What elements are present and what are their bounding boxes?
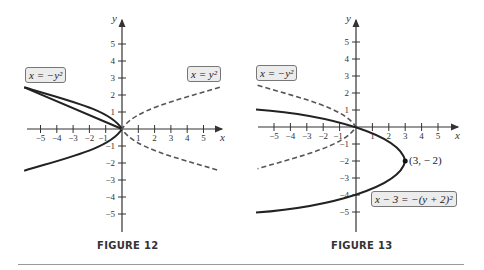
label-fig13-shifted-parabola: x − 3 = −(y + 2)² <box>371 191 457 207</box>
svg-text:−2: −2 <box>105 158 115 168</box>
svg-text:5: 5 <box>345 37 350 47</box>
svg-text:4: 4 <box>185 133 190 143</box>
svg-text:2: 2 <box>387 131 392 141</box>
label-fig12-x-eq-neg-y-squared: x = −y² <box>25 67 66 83</box>
svg-text:1: 1 <box>111 107 116 117</box>
svg-text:3: 3 <box>111 73 116 83</box>
svg-text:2: 2 <box>345 88 350 98</box>
svg-text:−4: −4 <box>105 192 115 202</box>
svg-text:5: 5 <box>201 133 206 143</box>
svg-text:4: 4 <box>111 56 116 66</box>
svg-text:−3: −3 <box>105 175 115 185</box>
svg-text:−3: −3 <box>302 131 312 141</box>
figure-12-graph: −5 −4 −3 −2 −1 1 2 3 4 5 5 4 3 2 1 −1 −2… <box>24 12 225 232</box>
svg-text:−3: −3 <box>68 133 78 143</box>
svg-text:−2: −2 <box>318 131 328 141</box>
svg-text:4: 4 <box>419 131 424 141</box>
svg-text:4: 4 <box>345 54 350 64</box>
figure-13-caption: FIGURE 13 <box>331 240 393 251</box>
svg-text:3: 3 <box>403 131 408 141</box>
svg-text:−5: −5 <box>36 133 46 143</box>
svg-text:−5: −5 <box>105 209 115 219</box>
curve-x-eq-neg-y-squared <box>24 87 122 129</box>
svg-text:5: 5 <box>436 131 441 141</box>
svg-text:−5: −5 <box>339 207 349 217</box>
svg-text:2: 2 <box>111 90 116 100</box>
svg-text:y: y <box>345 12 351 24</box>
bottom-rule <box>18 264 464 265</box>
svg-text:y: y <box>111 12 117 24</box>
svg-text:−4: −4 <box>286 131 296 141</box>
svg-text:3: 3 <box>345 71 350 81</box>
svg-text:−5: −5 <box>269 131 279 141</box>
svg-text:5: 5 <box>111 39 116 49</box>
svg-text:3: 3 <box>169 133 174 143</box>
svg-text:−3: −3 <box>339 173 349 183</box>
svg-text:−4: −4 <box>52 133 62 143</box>
figure-12-caption: FIGURE 12 <box>97 240 159 251</box>
svg-text:x: x <box>454 129 460 141</box>
svg-text:−2: −2 <box>339 156 349 166</box>
svg-text:2: 2 <box>152 133 157 143</box>
svg-text:1: 1 <box>345 105 350 115</box>
vertex-label: (3, − 2) <box>409 154 442 166</box>
label-fig13-x-eq-neg-y-squared: x = −y² <box>256 65 297 81</box>
svg-text:1: 1 <box>136 133 141 143</box>
figures-canvas: −5 −4 −3 −2 −1 1 2 3 4 5 5 4 3 2 1 −1 −2… <box>0 0 484 270</box>
svg-text:x: x <box>219 131 225 143</box>
svg-text:−2: −2 <box>85 133 95 143</box>
vertex-point <box>403 159 408 164</box>
label-fig12-x-eq-y-squared: x = y² <box>187 66 221 82</box>
